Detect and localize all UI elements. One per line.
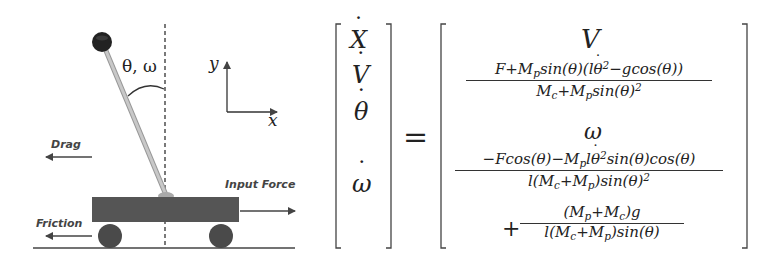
rhs-row1: V bbox=[581, 26, 600, 52]
axis-y-label: y bbox=[209, 55, 219, 72]
equals-sign: = bbox=[403, 122, 428, 152]
rhs-row5-fraction: (Mp+Mc)g l(Mc+Mp)sin(θ) bbox=[520, 205, 684, 242]
wheel-right bbox=[209, 224, 233, 248]
rhs-row5-numerator: (Mp+Mc)g bbox=[563, 205, 640, 222]
angle-label: θ, ω bbox=[122, 58, 157, 75]
lhs-bracket-right bbox=[386, 24, 391, 248]
rhs-row5-plus: + bbox=[502, 218, 520, 240]
rhs-row2-numerator: F+Mpsin(θ)(lθ2−gcos(θ)) bbox=[495, 60, 683, 79]
drag-label: Drag bbox=[51, 138, 81, 151]
lhs-omega-dot: ω bbox=[352, 172, 372, 196]
rhs-row4-fraction: −Fcos(θ)−Mplθ2sin(θ)cos(θ) l(Mc+Mp)sin(θ… bbox=[455, 150, 723, 192]
rhs-row4-denominator: l(Mc+Mp)sin(θ)2 bbox=[528, 172, 650, 191]
lhs-theta-dot: θ bbox=[354, 100, 368, 124]
lhs-v-dot: V bbox=[352, 63, 369, 87]
axis-x-label: x bbox=[268, 112, 278, 129]
pendulum-mass bbox=[92, 32, 112, 52]
angle-arc bbox=[128, 86, 164, 96]
wheel-left bbox=[98, 224, 122, 248]
cart-body bbox=[92, 197, 239, 222]
lhs-bracket-left bbox=[336, 24, 341, 248]
friction-label: Friction bbox=[36, 217, 82, 230]
input-force-label: Input Force bbox=[225, 178, 295, 191]
rhs-row4-numerator: −Fcos(θ)−Mplθ2sin(θ)cos(θ) bbox=[483, 150, 696, 169]
rhs-row5-denominator: l(Mc+Mp)sin(θ) bbox=[544, 225, 659, 242]
rhs-row2-denominator: Mc+Mpsin(θ)2 bbox=[536, 82, 642, 101]
rhs-row3: ω bbox=[584, 121, 602, 143]
rhs-bracket-right bbox=[742, 24, 747, 248]
rhs-row2-fraction: F+Mpsin(θ)(lθ2−gcos(θ)) Mc+Mpsin(θ)2 bbox=[466, 60, 712, 102]
rhs-bracket-left bbox=[441, 24, 446, 248]
